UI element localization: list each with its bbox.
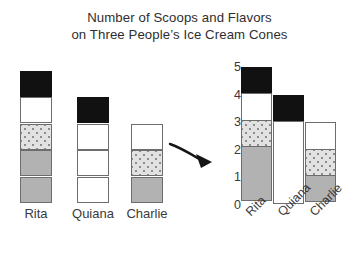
cube-dotted <box>131 150 163 176</box>
bar-segment-dotted <box>241 120 272 148</box>
y-tick-2: 2 <box>227 144 241 156</box>
bar-segment-dotted <box>305 149 336 177</box>
cube-stack-label-rita: Rita <box>20 206 52 221</box>
cube-white <box>77 124 109 150</box>
cube-diagram: Rita Quiana Charlie <box>0 0 180 253</box>
bar-segment-black <box>241 67 272 95</box>
bar-rita <box>241 67 272 205</box>
plot-area <box>241 67 337 205</box>
cube-stack-charlie <box>131 124 163 204</box>
cube-stack-quiana <box>77 97 109 203</box>
bar-segment-black <box>273 95 304 123</box>
cube-stack-label-quiana: Quiana <box>63 206 123 221</box>
y-tick-3: 3 <box>227 116 241 128</box>
cube-gray <box>20 150 52 176</box>
cube-white <box>77 150 109 176</box>
y-tick-1: 1 <box>227 171 241 183</box>
cube-black <box>77 97 109 123</box>
cube-white <box>20 97 52 123</box>
bar-segment-white <box>305 122 336 150</box>
cube-black <box>20 71 52 97</box>
y-tick-4: 4 <box>227 89 241 101</box>
cube-gray <box>20 177 52 203</box>
cube-stack-label-charlie: Charlie <box>117 206 177 221</box>
bar-segment-white <box>241 93 272 121</box>
y-tick-0: 0 <box>227 199 241 211</box>
cube-white <box>77 177 109 203</box>
cube-dotted <box>20 124 52 150</box>
cube-stack-rita <box>20 71 52 204</box>
cube-gray <box>131 177 163 203</box>
cube-white <box>131 124 163 150</box>
bar-chart: 5 4 3 2 1 0 Rita Quiana Charlie <box>210 0 359 253</box>
bar-segment-gray <box>241 146 272 201</box>
y-tick-5: 5 <box>227 61 241 73</box>
